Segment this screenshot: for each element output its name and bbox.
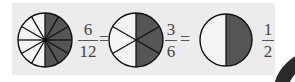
numerator: 6 — [84, 20, 93, 39]
equals-sign: = — [99, 29, 109, 50]
fraction-3-6: 3 6 — [165, 21, 177, 60]
shaded-region — [226, 14, 252, 66]
fraction-6-12: 6 12 — [78, 21, 98, 60]
fraction-1-2: 1 2 — [262, 21, 274, 60]
denominator: 12 — [80, 42, 97, 61]
numerator: 3 — [167, 20, 176, 39]
halves-circle — [200, 14, 252, 66]
fraction-bar — [165, 40, 177, 41]
fraction-circles — [0, 0, 295, 82]
denominator: 2 — [264, 42, 273, 61]
fraction-bar — [78, 40, 98, 41]
shaded-region — [136, 13, 163, 67]
sixths-circle — [109, 13, 163, 67]
numerator: 1 — [264, 20, 273, 39]
denominator: 6 — [167, 42, 176, 61]
fraction-bar — [262, 40, 274, 41]
dark-ring-decoration — [280, 57, 295, 82]
equals-sign: = — [180, 29, 190, 50]
twelfths-circle — [18, 13, 72, 67]
